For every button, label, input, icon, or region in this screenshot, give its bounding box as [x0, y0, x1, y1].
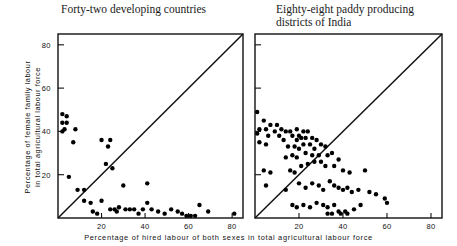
- data-point: [341, 188, 345, 192]
- data-point: [257, 140, 261, 144]
- data-point: [60, 129, 64, 133]
- scatter-plots-svg: 2040608020406080 20406080: [0, 0, 457, 246]
- data-point: [323, 164, 327, 168]
- data-point: [141, 207, 145, 211]
- data-point: [176, 209, 180, 213]
- data-point: [75, 188, 79, 192]
- data-point: [117, 205, 121, 209]
- data-point: [374, 192, 378, 196]
- data-point: [295, 138, 299, 142]
- x-tick-label: 40: [140, 222, 149, 231]
- data-point: [277, 134, 281, 138]
- data-point: [325, 211, 329, 215]
- data-point: [284, 129, 288, 133]
- x-tick-label: 20: [294, 222, 303, 231]
- data-point: [303, 136, 307, 140]
- data-point: [308, 142, 312, 146]
- y-tick-label: 40: [42, 127, 51, 136]
- data-point: [328, 179, 332, 183]
- data-point: [264, 127, 268, 131]
- data-point: [290, 134, 294, 138]
- data-point: [65, 121, 69, 125]
- data-point: [339, 211, 343, 215]
- data-point: [91, 209, 95, 213]
- data-point: [275, 123, 279, 127]
- data-point: [288, 129, 292, 133]
- data-point: [314, 201, 318, 205]
- data-point: [128, 207, 132, 211]
- chart-title-right: Eighty-eight paddy producing districts o…: [276, 3, 456, 28]
- data-point: [169, 207, 173, 211]
- y-axis-label: Percentage of female family labour in to…: [23, 32, 43, 222]
- data-point: [299, 136, 303, 140]
- data-point: [297, 147, 301, 151]
- data-point: [281, 138, 285, 142]
- data-point: [345, 211, 349, 215]
- data-point: [319, 160, 323, 164]
- data-point: [347, 170, 351, 174]
- data-point: [295, 205, 299, 209]
- y-tick-label: 80: [42, 41, 51, 50]
- data-point: [303, 185, 307, 189]
- data-point: [317, 183, 321, 187]
- data-point: [295, 127, 299, 131]
- data-point: [383, 196, 387, 200]
- data-point: [336, 157, 340, 161]
- data-point: [299, 164, 303, 168]
- x-tick-label: 20: [97, 222, 106, 231]
- data-point: [325, 153, 329, 157]
- data-point: [314, 138, 318, 142]
- data-point: [65, 114, 69, 118]
- data-point: [108, 138, 112, 142]
- data-point: [145, 201, 149, 205]
- x-tick-label: 60: [184, 222, 193, 231]
- data-point: [332, 203, 336, 207]
- data-point: [385, 201, 389, 205]
- data-point: [257, 127, 261, 131]
- data-point: [363, 168, 367, 172]
- data-point: [262, 168, 266, 172]
- data-point: [255, 131, 259, 135]
- data-point: [99, 198, 103, 202]
- data-point: [301, 203, 305, 207]
- y-tick-label: 60: [42, 84, 51, 93]
- data-point: [268, 123, 272, 127]
- data-point: [110, 166, 114, 170]
- data-point: [132, 207, 136, 211]
- data-point: [323, 144, 327, 148]
- data-point: [301, 129, 305, 133]
- data-point: [255, 110, 259, 114]
- data-point: [115, 209, 119, 213]
- data-point: [123, 207, 127, 211]
- data-point: [321, 203, 325, 207]
- data-point: [350, 190, 354, 194]
- x-tick-label: 80: [426, 222, 435, 231]
- data-point: [180, 211, 184, 215]
- data-point: [106, 144, 110, 148]
- data-point: [266, 134, 270, 138]
- data-point: [288, 168, 292, 172]
- data-point: [184, 214, 188, 218]
- data-point: [273, 129, 277, 133]
- data-point: [162, 211, 166, 215]
- chart-title-left: Forty-two developing countries: [61, 3, 247, 16]
- data-point: [321, 188, 325, 192]
- data-point: [99, 138, 103, 142]
- data-point: [312, 160, 316, 164]
- x-tick-label: 60: [382, 222, 391, 231]
- data-point: [310, 181, 314, 185]
- data-point: [71, 140, 75, 144]
- data-point: [108, 207, 112, 211]
- scatter-panel-right: 20406080: [255, 34, 442, 231]
- data-point: [264, 142, 268, 146]
- data-point: [358, 203, 362, 207]
- data-point: [295, 155, 299, 159]
- data-point: [330, 151, 334, 155]
- data-point: [319, 142, 323, 146]
- data-point: [317, 153, 321, 157]
- data-point: [279, 127, 283, 131]
- x-tick-label: 40: [338, 222, 347, 231]
- data-point: [67, 175, 71, 179]
- data-point: [308, 205, 312, 209]
- data-point: [284, 188, 288, 192]
